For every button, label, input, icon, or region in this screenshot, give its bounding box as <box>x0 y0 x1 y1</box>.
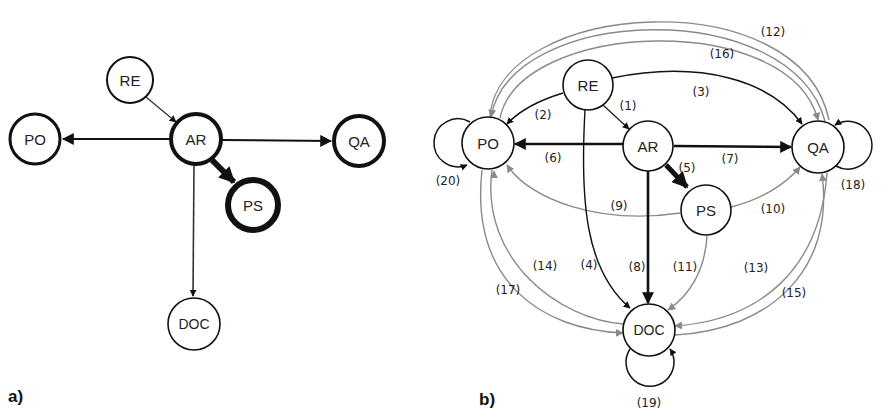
node-label: AR <box>638 138 659 155</box>
edge-label-18: (18) <box>841 178 866 192</box>
node-label: PS <box>243 197 263 214</box>
edge-label-19: (19) <box>637 396 662 410</box>
edge-label-14: (14) <box>533 259 558 273</box>
edge-17 <box>481 170 624 333</box>
node-qa: QA <box>792 121 844 173</box>
node-ps: PS <box>681 185 731 235</box>
edge-label-12: (12) <box>761 25 786 39</box>
edge-14 <box>491 170 624 324</box>
node-label: DOC <box>178 316 209 332</box>
node-doc: DOC <box>168 298 220 350</box>
node-ar: AR <box>623 121 673 171</box>
edge-label-17: (17) <box>496 283 521 297</box>
node-re: RE <box>563 60 613 110</box>
node-label: DOC <box>633 322 664 338</box>
node-label: AR <box>186 131 207 148</box>
node-label: PS <box>696 202 716 219</box>
node-ar: AR <box>171 114 221 164</box>
edge-7 <box>674 146 791 147</box>
edge-label-5: (5) <box>679 161 696 175</box>
node-label: PO <box>477 135 499 152</box>
edge-label-15: (15) <box>782 286 807 300</box>
edge-9 <box>507 165 680 216</box>
edge-label-2: (2) <box>535 108 552 122</box>
diagram-canvas: RE AR PO QA PS DOC a) <box>0 0 881 413</box>
edge-label-8: (8) <box>629 260 646 274</box>
edge-label-10: (10) <box>761 202 786 216</box>
node-label: PO <box>24 131 46 148</box>
panel-label-b: b) <box>479 390 495 409</box>
edge-label-13: (13) <box>744 261 769 275</box>
edge-ar-ps <box>212 160 234 182</box>
panel-a: RE AR PO QA PS DOC a) <box>8 57 384 406</box>
node-label: RE <box>120 72 141 89</box>
node-qa: QA <box>334 116 384 166</box>
panel-b: RE AR PO QA PS DOC (1) (2) (3) (4) (5) (… <box>434 22 872 410</box>
edge-label-16: (16) <box>710 47 735 61</box>
edge-label-4: (4) <box>581 258 598 272</box>
node-po: PO <box>462 117 514 169</box>
edge-label-7: (7) <box>722 152 739 166</box>
edge-label-1: (1) <box>620 99 637 113</box>
edge-14-arrow <box>494 171 500 240</box>
node-doc: DOC <box>623 304 675 356</box>
edge-10 <box>731 167 800 207</box>
node-label: QA <box>807 139 829 156</box>
edge-label-20: (20) <box>436 174 461 188</box>
edge-label-11: (11) <box>673 260 698 274</box>
edge-ar-qa <box>222 140 331 141</box>
edge-label-6: (6) <box>545 151 562 165</box>
edge-label-3: (3) <box>693 85 710 99</box>
node-re: RE <box>107 57 153 103</box>
node-po: PO <box>10 114 60 164</box>
edge-re-ar <box>146 97 176 122</box>
node-label: RE <box>578 77 599 94</box>
node-label: QA <box>348 133 370 150</box>
edge-label-9: (9) <box>611 199 628 213</box>
panel-label-a: a) <box>8 387 23 406</box>
node-ps: PS <box>228 180 278 230</box>
edge-ar-doc <box>193 164 194 296</box>
